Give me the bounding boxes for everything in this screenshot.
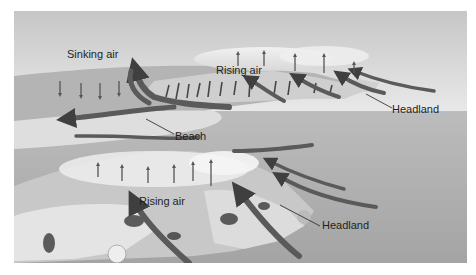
label-rising-air-bottom: Rising air [139,196,185,207]
label-beach: Beach [175,131,206,142]
headland-air-circulation-diagram: Sinking air Rising air Beach Headland Ri… [14,11,467,263]
label-headland-bottom: Headland [322,220,369,231]
label-sinking-air: Sinking air [67,49,118,60]
label-headland-top: Headland [392,104,439,115]
label-rising-air-top: Rising air [216,65,262,76]
